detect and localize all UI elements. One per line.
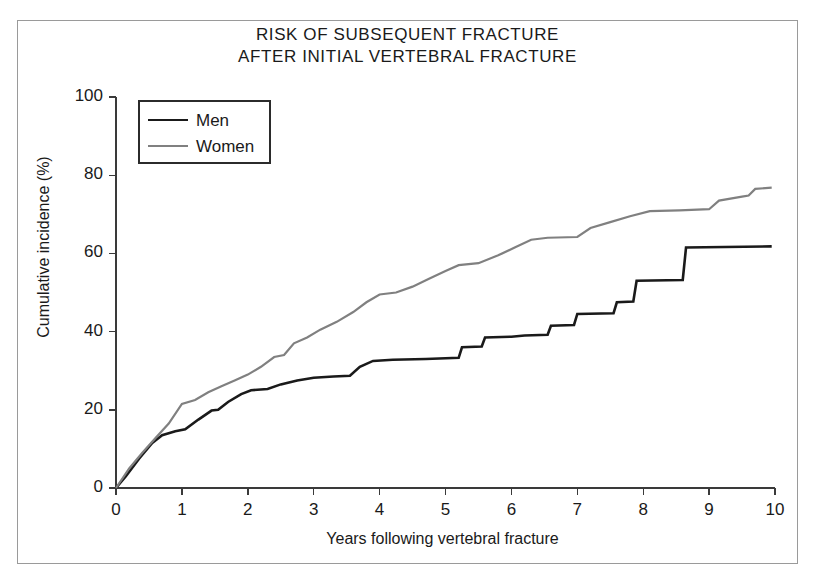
legend-entry-women: Women (148, 133, 254, 159)
legend-box: Men Women (138, 100, 271, 164)
x-tick-label-10: 10 (755, 500, 795, 520)
y-tick-label-4: 80 (57, 164, 103, 184)
y-tick-label-3: 60 (57, 242, 103, 262)
plot-area (0, 0, 815, 586)
x-tick-label-8: 8 (623, 500, 663, 520)
x-tick-label-3: 3 (294, 500, 334, 520)
series-line-women (116, 188, 772, 488)
legend-entry-men: Men (148, 107, 229, 133)
series-line-men (116, 246, 772, 488)
legend-swatch-women (148, 145, 188, 147)
x-tick-label-0: 0 (96, 500, 136, 520)
x-tick-label-9: 9 (689, 500, 729, 520)
y-tick-label-2: 40 (57, 321, 103, 341)
legend-swatch-men (148, 119, 188, 121)
x-tick-label-1: 1 (162, 500, 202, 520)
x-tick-label-7: 7 (557, 500, 597, 520)
y-tick-label-0: 0 (57, 477, 103, 497)
series-lines (116, 188, 772, 488)
y-tick-label-5: 100 (57, 86, 103, 106)
y-tick-label-1: 20 (57, 399, 103, 419)
legend-label-men: Men (196, 112, 229, 129)
x-tick-label-6: 6 (491, 500, 531, 520)
x-tick-label-5: 5 (426, 500, 466, 520)
legend-label-women: Women (196, 138, 254, 155)
x-tick-label-4: 4 (360, 500, 400, 520)
x-tick-label-2: 2 (228, 500, 268, 520)
figure-container: RISK OF SUBSEQUENT FRACTURE AFTER INITIA… (0, 0, 815, 586)
